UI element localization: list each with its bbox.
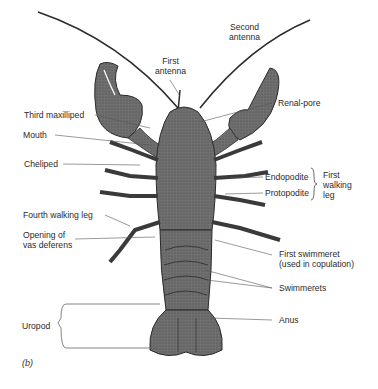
left-claw	[95, 62, 143, 138]
label-fourth-walking-leg: Fourth walking leg	[23, 210, 93, 220]
label-first-walking-leg: First walking leg	[323, 170, 352, 200]
crayfish-diagram: First antenna Second antenna Third maxil…	[0, 0, 378, 389]
label-line: First	[323, 170, 352, 180]
label-swimmerets: Swimmerets	[279, 283, 326, 293]
crayfish-illustration	[0, 0, 378, 389]
right-claw	[229, 68, 279, 140]
label-third-maxilliped: Third maxilliped	[24, 110, 84, 120]
tail-fan	[150, 310, 222, 356]
label-line: (used in copulation)	[279, 259, 354, 269]
label-line: leg	[323, 190, 352, 200]
label-line: vas deferens	[23, 240, 72, 250]
walking-leg-bracket	[311, 168, 317, 200]
label-second-antenna: Second antenna	[229, 22, 260, 42]
label-mouth: Mouth	[23, 130, 47, 140]
label-line: First swimmeret	[279, 249, 354, 259]
cephalothorax	[156, 107, 216, 230]
label-endopodite: Endopodite	[265, 172, 309, 182]
label-cheliped: Cheliped	[24, 159, 58, 169]
label-opening-vas-deferens: Opening of vas deferens	[23, 230, 72, 250]
label-line: antenna	[229, 32, 260, 42]
label-line: walking	[323, 180, 352, 190]
label-renal-pore: Renal-pore	[278, 98, 321, 108]
label-protopodite: Protopodite	[265, 188, 309, 198]
label-line: Second	[229, 22, 260, 32]
label-line: Opening of	[23, 230, 72, 240]
label-first-swimmeret: First swimmeret (used in copulation)	[279, 249, 354, 269]
label-anus: Anus	[279, 315, 299, 325]
label-first-antenna: First antenna	[155, 56, 186, 76]
label-line: First	[155, 56, 186, 66]
label-line: antenna	[155, 66, 186, 76]
label-uropod: Uropod	[22, 321, 50, 331]
panel-label: (b)	[22, 358, 33, 368]
abdomen	[160, 230, 212, 310]
uropod-bracket	[58, 304, 158, 348]
